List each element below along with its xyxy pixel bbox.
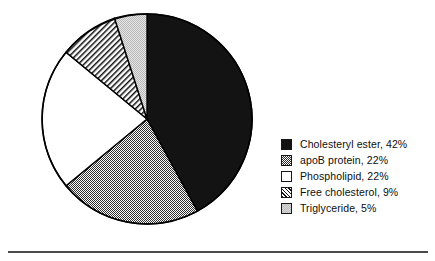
white-swatch-icon — [281, 171, 292, 182]
legend-item-phospholipid: Phospholipid, 22% — [281, 168, 433, 184]
legend-item-cholesteryl-ester: Cholesteryl ester, 42% — [281, 136, 433, 152]
hatch-swatch-icon — [281, 187, 292, 198]
solid-black-swatch-icon — [281, 139, 292, 150]
pie-chart — [0, 0, 300, 240]
legend-item-triglyceride: Triglyceride, 5% — [281, 200, 433, 216]
legend-label: Cholesteryl ester, 42% — [300, 138, 407, 150]
legend-label: Phospholipid, 22% — [300, 170, 389, 182]
chart-legend: Cholesteryl ester, 42% apoB protein, 22%… — [281, 136, 433, 216]
legend-label: apoB protein, 22% — [300, 154, 388, 166]
legend-item-free-cholesterol: Free cholesterol, 9% — [281, 184, 433, 200]
checkerboard-swatch-icon — [281, 155, 292, 166]
pie-chart-figure: Cholesteryl ester, 42% apoB protein, 22%… — [0, 0, 435, 261]
legend-label: Triglyceride, 5% — [300, 202, 376, 214]
horizontal-rule — [8, 251, 428, 253]
light-gray-swatch-icon — [281, 203, 292, 214]
legend-item-apob-protein: apoB protein, 22% — [281, 152, 433, 168]
legend-label: Free cholesterol, 9% — [300, 186, 398, 198]
